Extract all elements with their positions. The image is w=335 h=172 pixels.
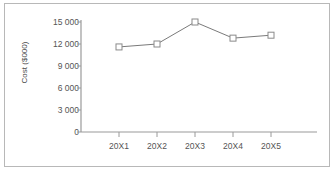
data-point-marker: [116, 44, 122, 50]
data-point-marker: [154, 41, 160, 47]
line-chart: Cost ($000) 03 0006 0009 00012 00015 000…: [5, 4, 331, 168]
data-point-marker: [230, 35, 236, 41]
chart-axes: [81, 20, 317, 132]
chart-border-frame: Cost ($000) 03 0006 0009 00012 00015 000…: [4, 3, 330, 167]
data-series-line: [119, 22, 271, 47]
data-point-marker: [268, 32, 274, 38]
data-point-marker: [192, 19, 198, 25]
chart-plot-area: [5, 4, 331, 168]
chart-tick-marks: [77, 22, 271, 137]
